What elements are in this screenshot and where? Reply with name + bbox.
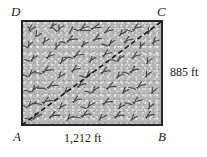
vertex-label-D: D (11, 5, 20, 18)
dimension-label-width: 1,212 ft (64, 132, 101, 144)
dimension-label-height: 885 ft (170, 66, 198, 78)
vegetation-texture-icon (23, 22, 161, 124)
vertex-label-B: B (158, 130, 166, 143)
vertex-label-C: C (157, 5, 166, 18)
rectangle-field-diagram: D C A B 1,212 ft 885 ft (0, 0, 207, 157)
vertex-label-A: A (13, 130, 21, 143)
field-rectangle (21, 20, 163, 126)
